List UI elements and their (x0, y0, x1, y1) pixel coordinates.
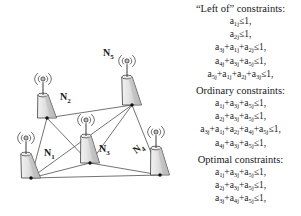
term-subscript: 5j (249, 60, 254, 67)
node-point (130, 103, 133, 106)
constraint-equation: a3j+a1j+a2j≤1, (181, 41, 300, 54)
equation-rhs: ≤1, (254, 167, 266, 177)
term-base: a (244, 167, 248, 177)
signal-wave-icon (21, 135, 23, 142)
term-subscript: 5j (249, 171, 254, 178)
term-base: a (244, 180, 248, 190)
term-subscript: 2j (241, 73, 246, 80)
signal-wave-icon (31, 132, 34, 144)
equation-rhs: ≤1, (254, 180, 266, 190)
equation-rhs: ≤1, (254, 193, 266, 203)
node-label-n3: N3 (99, 144, 110, 157)
constraint-list: “Left of” constraints:a1j≤1,a2j≤1,a3j+a1… (181, 2, 300, 205)
constraint-equation: a2j+a3j+a5j≤1, (181, 110, 300, 123)
figure-canvas: N1N2N3N4N5 “Left of” constraints:a1j≤1,a… (0, 0, 301, 216)
term-subscript: 4j (219, 142, 224, 149)
node-label-n5: N5 (103, 48, 114, 61)
signal-wave-icon (46, 76, 48, 83)
constraint-group-heading: Ordinary constraints: (181, 84, 300, 97)
node-label-n1: N1 (44, 148, 55, 161)
term-subscript: 3j (204, 128, 209, 135)
node-label-n2: N2 (60, 92, 71, 105)
constraint-equation: a5j+a1j+a2j+a3j≤1, (181, 68, 300, 81)
term-subscript: 1j (219, 102, 224, 109)
diagram-svg (0, 0, 180, 216)
term-base: a (244, 138, 248, 148)
term-subscript: 1j (234, 20, 239, 27)
signal-wave-icon (119, 55, 122, 67)
network-diagram: N1N2N3N4N5 (0, 0, 180, 216)
term-base: a (244, 42, 248, 52)
signal-wave-icon (29, 135, 31, 142)
signal-wave-icon (151, 129, 153, 136)
tower-n4 (148, 126, 170, 177)
signal-wave-icon (78, 114, 81, 126)
signal-wave-icon (161, 126, 164, 138)
signal-wave-icon (35, 73, 38, 85)
term-subscript: 3j (234, 171, 239, 178)
equation-rhs: ≤1, (254, 42, 266, 52)
antenna-icon (125, 59, 129, 63)
term-subscript: 3j (234, 142, 239, 149)
antenna-icon (24, 136, 28, 140)
constraint-equation: a1j+a3j+a5j≤1, (181, 97, 300, 110)
term-subscript: 3j (219, 197, 224, 204)
term-subscript: 4j (234, 197, 239, 204)
term-subscript: 4j (249, 128, 254, 135)
term-subscript: 2j (219, 115, 224, 122)
tower-n3 (78, 114, 100, 165)
term-base: a (222, 69, 226, 79)
node-label-subscript: 5 (110, 53, 114, 61)
equation-rhs: ≤1, (254, 111, 266, 121)
constraint-equation: a4j+a3j+a5j≤1, (181, 137, 300, 150)
tower-layer (18, 55, 170, 180)
signal-wave-icon (89, 117, 91, 124)
constraint-group-heading: Optimal constraints: (181, 153, 300, 166)
node-label-subscript: 2 (67, 97, 71, 105)
tower-n5 (119, 55, 142, 107)
edge-n2-n5 (47, 105, 132, 118)
signal-wave-icon (91, 114, 94, 126)
signal-wave-icon (130, 58, 132, 65)
node-point (158, 173, 161, 176)
signal-wave-icon (122, 58, 124, 65)
edge-n1-n4 (31, 175, 160, 178)
equation-rhs: ≤1, (254, 98, 266, 108)
term-subscript: 2j (249, 46, 254, 53)
node-point (88, 161, 91, 164)
term-base: a (244, 124, 248, 134)
equation-rhs: ≤1, (254, 138, 266, 148)
node-label-subscript: 3 (106, 149, 110, 157)
constraint-group-heading: “Left of” constraints: (181, 2, 300, 15)
antenna-icon (84, 118, 88, 122)
term-subscript: 5j (249, 197, 254, 204)
signal-wave-icon (148, 126, 151, 138)
signal-wave-icon (81, 117, 83, 124)
equation-rhs: ≤1, (239, 29, 251, 39)
edge-n3-n4 (90, 163, 160, 175)
signal-wave-icon (18, 132, 21, 144)
equation-rhs: ≤1, (261, 69, 273, 79)
term-subscript: 5j (263, 128, 268, 135)
node-point (29, 176, 32, 179)
term-subscript: 2j (234, 128, 239, 135)
antenna-icon (41, 77, 45, 81)
equation-rhs: ≤1, (268, 124, 280, 134)
equation-rhs: ≤1, (254, 56, 266, 66)
signal-wave-icon (132, 55, 135, 67)
constraint-equation: a1j+a3j+a5j≤1, (181, 166, 300, 179)
constraint-equation: a2j+a3j+a5j≤1, (181, 179, 300, 192)
signal-wave-icon (159, 129, 161, 136)
term-subscript: 5j (212, 73, 217, 80)
node-point (45, 116, 48, 119)
term-subscript: 1j (219, 171, 224, 178)
constraint-equation: a4j+a3j+a5j≤1, (181, 55, 300, 68)
term-subscript: 3j (234, 102, 239, 109)
term-subscript: 3j (234, 60, 239, 67)
equation-rhs: ≤1, (239, 16, 251, 26)
term-subscript: 3j (219, 46, 224, 53)
term-subscript: 4j (219, 60, 224, 67)
constraint-equation: a2j≤1, (181, 28, 300, 41)
term-subscript: 3j (234, 115, 239, 122)
term-subscript: 1j (219, 128, 224, 135)
